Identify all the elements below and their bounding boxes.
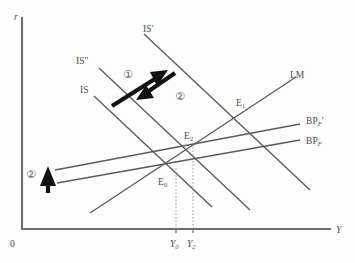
figure-container: r Y 0 Y0 Y2 IS′ IS″ IS LM BPF′ BPF E0 E2… bbox=[0, 0, 355, 263]
y-axis-label: r bbox=[14, 11, 18, 22]
islm-bp-diagram: r Y 0 Y0 Y2 IS′ IS″ IS LM BPF′ BPF E0 E2… bbox=[0, 0, 355, 263]
x-axis-label: Y bbox=[336, 224, 343, 235]
is-curves-group bbox=[94, 34, 310, 210]
lm-label: LM bbox=[290, 69, 305, 80]
x-tick-label-y2: Y2 bbox=[187, 238, 196, 250]
bp-f-prime-label: BPF′ bbox=[306, 115, 324, 127]
is-prime-label: IS′ bbox=[143, 23, 154, 34]
bp-f-label: BPF bbox=[306, 135, 323, 147]
x-tick-label-y0: Y0 bbox=[170, 238, 179, 250]
step-marker-two-center: ② bbox=[175, 90, 185, 103]
equilibrium-label-e0: E0 bbox=[158, 176, 168, 188]
equilibrium-label-e1: E1 bbox=[236, 97, 245, 109]
shift-arrow-up-left bbox=[40, 166, 56, 193]
step-marker-one: ① bbox=[123, 68, 133, 81]
is-label: IS bbox=[80, 84, 89, 95]
origin-label: 0 bbox=[10, 238, 15, 249]
equilibrium-label-e2: E2 bbox=[184, 130, 193, 142]
arrowhead-up-left bbox=[40, 166, 56, 186]
step-marker-two-left: ② bbox=[26, 168, 36, 181]
is-double-prime-label: IS″ bbox=[76, 55, 89, 66]
